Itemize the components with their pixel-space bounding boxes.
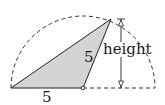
center-point xyxy=(81,86,85,90)
arrow-up-icon xyxy=(119,20,124,26)
arrow-down-icon xyxy=(119,81,124,87)
diagram-canvas: height 5 5 xyxy=(0,0,165,105)
shaded-triangle xyxy=(11,19,111,88)
base-length-label: 5 xyxy=(42,88,52,105)
height-label: height xyxy=(103,40,152,58)
side-length-label: 5 xyxy=(84,48,94,66)
